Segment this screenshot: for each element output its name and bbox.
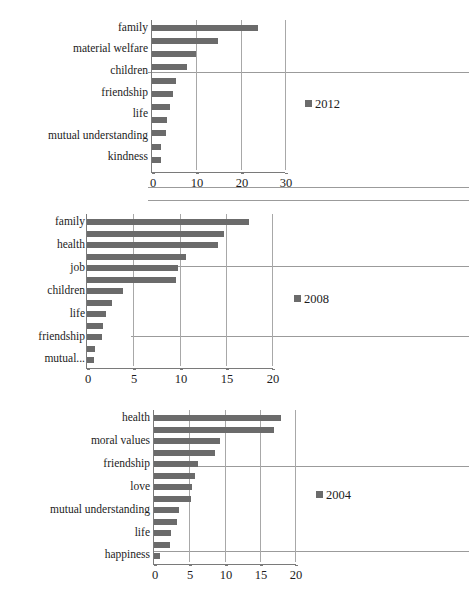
bar — [87, 311, 106, 317]
bar — [154, 461, 198, 467]
x-axis-tick — [241, 173, 244, 174]
bar — [87, 277, 176, 283]
bar — [87, 323, 103, 329]
bar — [154, 484, 192, 490]
bar — [87, 219, 249, 225]
bar — [152, 91, 173, 97]
x-axis-tick — [295, 565, 298, 566]
bar — [87, 242, 218, 248]
category-label: job — [70, 262, 85, 274]
chart-2004: health moral values friendship love mutu… — [0, 396, 469, 586]
x-tick-label: 15 — [255, 568, 268, 583]
x-tick-label: 10 — [175, 372, 188, 387]
bar — [87, 265, 178, 271]
x-axis-tick — [189, 565, 192, 566]
bar — [152, 38, 218, 44]
x-tick-label: 20 — [290, 568, 303, 583]
page-rule-top — [148, 200, 469, 201]
x-tick-label: 10 — [191, 176, 204, 191]
bar — [154, 496, 191, 502]
bar — [87, 254, 186, 260]
category-label: children — [47, 285, 85, 297]
x-axis-tick — [154, 565, 157, 566]
plot-area-2008 — [87, 214, 272, 366]
x-tick-label: 5 — [131, 372, 137, 387]
bar — [152, 78, 176, 84]
category-label: children — [110, 65, 148, 77]
bar — [152, 64, 187, 70]
x-axis-tick — [180, 369, 183, 370]
x-axis-tick — [260, 565, 263, 566]
legend-2012: 2012 — [305, 97, 340, 112]
gridline — [241, 20, 242, 170]
x-tick-label: 10 — [220, 568, 233, 583]
category-label: life — [135, 527, 150, 539]
x-tick-label: 20 — [267, 372, 280, 387]
bar — [154, 530, 171, 536]
category-label: friendship — [101, 87, 148, 99]
plot-area-2004 — [154, 410, 295, 562]
category-label: moral values — [91, 435, 150, 447]
legend-swatch-icon — [294, 295, 301, 302]
category-label: family — [55, 216, 85, 228]
bar — [154, 438, 220, 444]
gridline — [295, 410, 296, 562]
bar — [152, 25, 258, 31]
category-axis-labels-2012: family material welfare children friends… — [10, 6, 148, 156]
category-label: kindness — [108, 151, 148, 163]
x-tick-label: 30 — [280, 176, 293, 191]
bar — [152, 157, 161, 163]
category-label: friendship — [38, 331, 85, 343]
x-tick-label: 0 — [150, 176, 156, 191]
legend-label: 2004 — [326, 488, 351, 502]
bar — [154, 507, 179, 513]
legend-2004: 2004 — [316, 488, 351, 503]
bar — [87, 334, 102, 340]
gridline — [285, 20, 286, 170]
category-label: life — [133, 108, 148, 120]
category-label: friendship — [103, 458, 150, 470]
plot-area-2012 — [152, 20, 285, 170]
figure-page: family material welfare children friends… — [0, 0, 469, 590]
y-axis-line — [151, 20, 152, 172]
x-tick-label: 0 — [85, 372, 91, 387]
bar — [87, 288, 123, 294]
x-axis-tick — [152, 173, 155, 174]
x-axis-tick — [87, 369, 90, 370]
category-label: love — [130, 481, 150, 493]
category-label: happiness — [105, 549, 150, 561]
legend-label: 2012 — [315, 97, 340, 111]
x-axis-line — [151, 172, 285, 173]
bar — [87, 346, 95, 352]
gridline — [226, 214, 227, 366]
category-axis-labels-2004: health moral values friendship love mutu… — [2, 396, 150, 546]
x-axis-tick — [225, 565, 228, 566]
bar — [152, 130, 166, 136]
x-tick-label: 0 — [152, 568, 158, 583]
bar — [152, 144, 161, 150]
bar — [154, 519, 177, 525]
y-axis-line — [153, 410, 154, 564]
bar — [154, 473, 195, 479]
legend-swatch-icon — [305, 100, 312, 107]
category-label: life — [70, 308, 85, 320]
chart-2008: family health job children life friendsh… — [0, 200, 469, 390]
category-axis-labels-2008: family health job children life friendsh… — [5, 200, 85, 350]
bar — [87, 300, 112, 306]
bar — [87, 357, 94, 363]
category-label: health — [57, 239, 85, 251]
bar — [87, 231, 224, 237]
x-axis-tick — [196, 173, 199, 174]
x-tick-label: 15 — [221, 372, 234, 387]
bar — [152, 51, 196, 57]
category-label: mutual understanding — [48, 130, 148, 142]
x-axis-tick — [133, 369, 136, 370]
bar — [154, 450, 215, 456]
x-axis-tick — [272, 369, 275, 370]
bar — [154, 427, 274, 433]
x-axis-tick — [226, 369, 229, 370]
legend-swatch-icon — [316, 491, 323, 498]
category-label: mutual... — [44, 353, 85, 365]
legend-label: 2008 — [304, 292, 329, 306]
x-tick-label: 5 — [187, 568, 193, 583]
